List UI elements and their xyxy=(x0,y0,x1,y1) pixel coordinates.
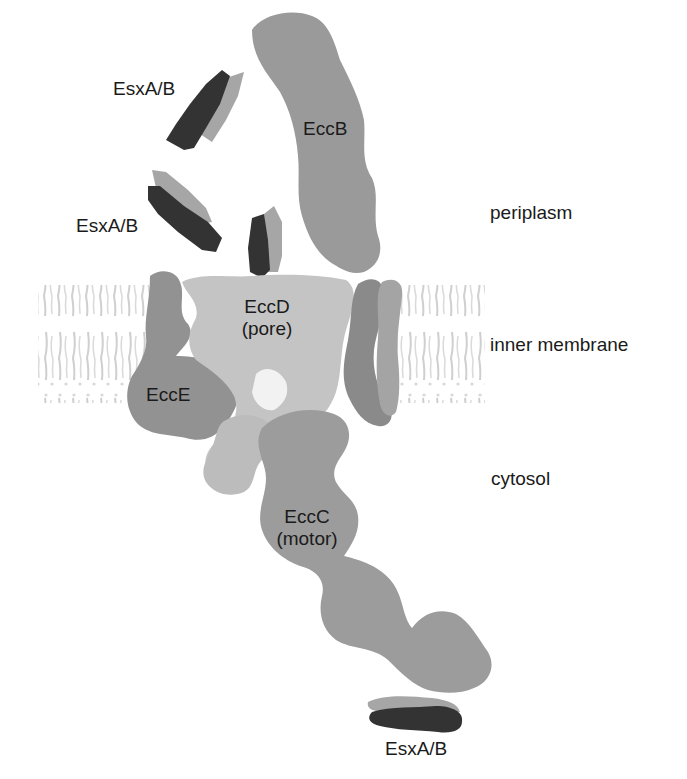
region-cytosol: cytosol xyxy=(491,468,550,490)
inner-membrane-right xyxy=(390,285,485,403)
label-eccB: EccB xyxy=(303,118,347,140)
eccC-protein xyxy=(258,410,491,693)
label-esx-top: EsxA/B xyxy=(113,78,175,100)
label-eccD-role: (pore) xyxy=(222,318,312,340)
label-eccC-name: EccC xyxy=(262,506,352,528)
label-esx-bottom: EsxA/B xyxy=(385,738,447,760)
label-eccC: EccC (motor) xyxy=(262,506,352,550)
label-eccD: EccD (pore) xyxy=(222,296,312,340)
region-periplasm: periplasm xyxy=(490,202,572,224)
label-esx-middle: EsxA/B xyxy=(76,215,138,237)
label-eccC-role: (motor) xyxy=(262,528,352,550)
label-eccD-name: EccD xyxy=(222,296,312,318)
esx-secretion-diagram xyxy=(0,0,687,779)
region-inner-membrane: inner membrane xyxy=(490,334,628,356)
label-eccE: EccE xyxy=(146,384,190,406)
esx-bottom-dark xyxy=(369,706,462,733)
